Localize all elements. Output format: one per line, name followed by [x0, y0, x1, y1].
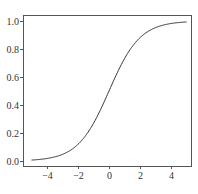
x-tick-label: −2 — [73, 170, 84, 181]
x-axis: −4−2024 — [42, 166, 174, 181]
y-tick-label: 0.0 — [7, 156, 20, 167]
y-tick-label: 1.0 — [7, 16, 20, 27]
sigmoid-chart: −4−2024 0.00.20.40.60.81.0 — [0, 0, 198, 194]
y-tick-label: 0.4 — [7, 100, 20, 111]
y-tick-label: 0.2 — [7, 128, 20, 139]
x-tick-label: 0 — [107, 170, 112, 181]
axes-box — [24, 16, 192, 167]
x-tick-label: −4 — [42, 170, 53, 181]
y-axis: 0.00.20.40.60.81.0 — [7, 16, 24, 167]
y-tick-label: 0.6 — [7, 72, 20, 83]
x-tick-label: 2 — [138, 170, 143, 181]
y-tick-label: 0.8 — [7, 44, 20, 55]
sigmoid-curve — [32, 22, 187, 160]
plot-frame — [24, 16, 192, 167]
x-tick-label: 4 — [169, 170, 174, 181]
